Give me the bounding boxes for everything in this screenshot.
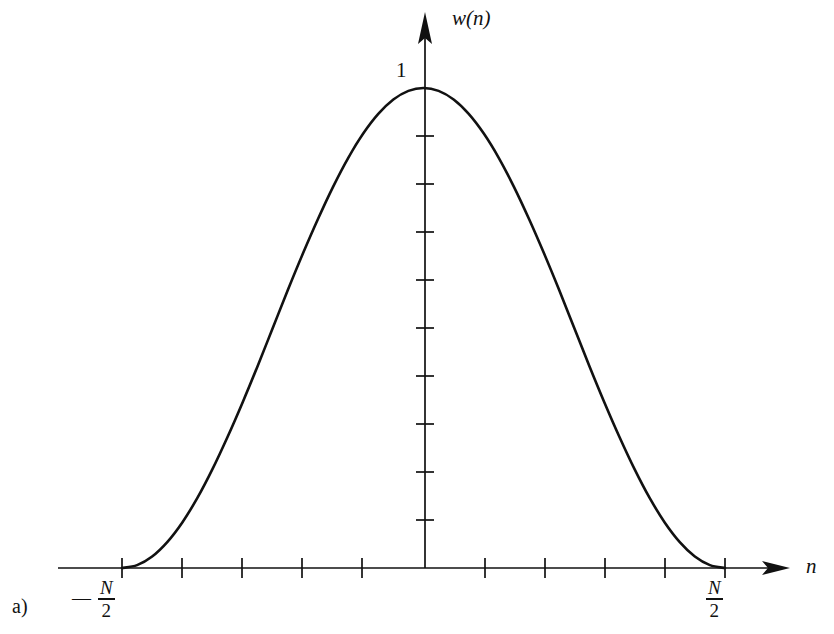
fraction-denominator: 2 [708, 601, 722, 620]
fraction-numerator: N [98, 578, 115, 597]
y-axis-label: w(n) [452, 8, 491, 29]
panel-label: a) [12, 596, 28, 616]
x-axis-tick-label-positive-half-n: N 2 [706, 578, 723, 620]
y-axis-tick-label-one: 1 [396, 60, 407, 81]
fraction: N 2 [98, 578, 115, 620]
figure-container: w(n) n 1 — N 2 N 2 a) [0, 0, 834, 634]
fraction-denominator: 2 [100, 601, 114, 620]
window-function-plot [0, 0, 834, 634]
x-axis-tick-label-negative-half-n: — N 2 [72, 578, 115, 620]
minus-sign: — [72, 587, 91, 609]
x-axis-label: n [806, 556, 817, 577]
fraction-numerator: N [706, 578, 723, 597]
fraction: N 2 [706, 578, 723, 620]
